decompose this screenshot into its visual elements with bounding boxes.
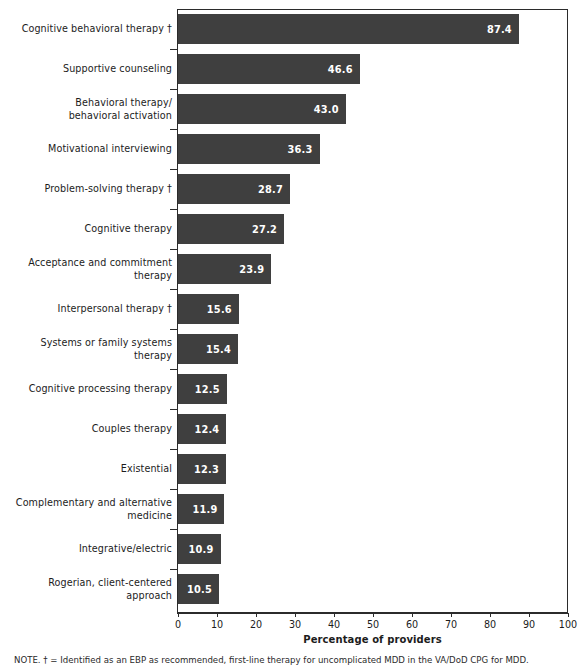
bar-container: 11.9 (178, 494, 568, 524)
bar[interactable]: 43.0 (178, 94, 346, 124)
y-axis-tick (170, 369, 178, 370)
x-tick-label: 100 (548, 619, 586, 630)
bar-container: 10.9 (178, 534, 568, 564)
bar[interactable]: 23.9 (178, 254, 271, 284)
x-tick-label: 40 (314, 619, 354, 630)
bar[interactable]: 10.5 (178, 574, 219, 604)
category-label: Systems or family systemstherapy (0, 337, 172, 362)
x-tick-label: 70 (431, 619, 471, 630)
bar[interactable]: 12.5 (178, 374, 227, 404)
bar-container: 15.6 (178, 294, 568, 324)
bar-container: 10.5 (178, 574, 568, 604)
bar-value-label: 43.0 (314, 104, 339, 115)
bar-chart: Cognitive behavioral therapy †87.4Suppor… (0, 0, 586, 666)
bar-row: Couples therapy12.4 (0, 409, 586, 449)
y-axis-tick (170, 449, 178, 450)
x-tick-mark (295, 613, 296, 617)
bar-container: 43.0 (178, 94, 568, 124)
x-tick-label: 30 (275, 619, 315, 630)
x-tick-mark (217, 613, 218, 617)
bar[interactable]: 28.7 (178, 174, 290, 204)
y-axis-tick (170, 89, 178, 90)
bar-row: Cognitive behavioral therapy †87.4 (0, 9, 586, 49)
category-label: Interpersonal therapy † (0, 303, 172, 316)
category-label: Acceptance and commitmenttherapy (0, 257, 172, 282)
x-axis-title: Percentage of providers (177, 634, 568, 645)
x-tick-mark (529, 613, 530, 617)
bar[interactable]: 15.4 (178, 334, 238, 364)
x-tick-label: 0 (158, 619, 198, 630)
y-axis-tick (170, 249, 178, 250)
x-tick-label: 80 (470, 619, 510, 630)
bar-row: Motivational interviewing36.3 (0, 129, 586, 169)
bar[interactable]: 87.4 (178, 14, 519, 44)
bar-container: 27.2 (178, 214, 568, 244)
bar-value-label: 11.9 (192, 504, 217, 515)
bar-container: 87.4 (178, 14, 568, 44)
y-axis-tick (170, 489, 178, 490)
bar-row: Existential12.3 (0, 449, 586, 489)
x-tick-mark (373, 613, 374, 617)
x-tick-label: 90 (509, 619, 549, 630)
bar-value-label: 10.9 (189, 544, 214, 555)
x-tick-mark (490, 613, 491, 617)
bar-container: 36.3 (178, 134, 568, 164)
bar-value-label: 15.4 (206, 344, 231, 355)
category-label: Supportive counseling (0, 63, 172, 76)
bar[interactable]: 46.6 (178, 54, 360, 84)
bar[interactable]: 10.9 (178, 534, 221, 564)
x-tick-label: 20 (236, 619, 276, 630)
bar-value-label: 10.5 (187, 584, 212, 595)
bar[interactable]: 12.3 (178, 454, 226, 484)
category-label: Motivational interviewing (0, 143, 172, 156)
x-tick-label: 10 (197, 619, 237, 630)
category-label: Cognitive processing therapy (0, 383, 172, 396)
bar-row: Cognitive processing therapy12.5 (0, 369, 586, 409)
bar-value-label: 15.6 (207, 304, 232, 315)
bar-value-label: 28.7 (258, 184, 283, 195)
bar-row: Complementary and alternativemedicine11.… (0, 489, 586, 529)
bar[interactable]: 11.9 (178, 494, 224, 524)
bar-row: Supportive counseling46.6 (0, 49, 586, 89)
chart-footnote: NOTE. † = Identified as an EBP as recomm… (14, 655, 574, 666)
bar[interactable]: 15.6 (178, 294, 239, 324)
bar-value-label: 87.4 (487, 24, 512, 35)
category-label: Problem-solving therapy † (0, 183, 172, 196)
category-label: Existential (0, 463, 172, 476)
bar-value-label: 12.5 (195, 384, 220, 395)
x-tick-mark (256, 613, 257, 617)
x-tick-mark (412, 613, 413, 617)
bar-container: 23.9 (178, 254, 568, 284)
bar-row: Cognitive therapy27.2 (0, 209, 586, 249)
bar-row: Behavioral therapy/behavioral activation… (0, 89, 586, 129)
bar-rows: Cognitive behavioral therapy †87.4Suppor… (0, 9, 586, 613)
bar-row: Rogerian, client-centeredapproach10.5 (0, 569, 586, 609)
x-tick-mark (334, 613, 335, 617)
category-label: Complementary and alternativemedicine (0, 497, 172, 522)
category-label: Cognitive behavioral therapy † (0, 23, 172, 36)
bar-value-label: 12.3 (194, 464, 219, 475)
category-label: Couples therapy (0, 423, 172, 436)
bar-value-label: 36.3 (288, 144, 313, 155)
y-axis-tick (170, 169, 178, 170)
bar-container: 12.3 (178, 454, 568, 484)
bar-container: 46.6 (178, 54, 568, 84)
x-tick-label: 60 (392, 619, 432, 630)
bar-container: 12.4 (178, 414, 568, 444)
bar-value-label: 27.2 (252, 224, 277, 235)
category-label: Rogerian, client-centeredapproach (0, 577, 172, 602)
category-label: Cognitive therapy (0, 223, 172, 236)
bar[interactable]: 36.3 (178, 134, 320, 164)
x-tick-mark (568, 613, 569, 617)
category-label: Integrative/electric (0, 543, 172, 556)
bar[interactable]: 12.4 (178, 414, 226, 444)
y-axis-tick (170, 49, 178, 50)
y-axis-tick (170, 129, 178, 130)
x-tick-label: 50 (353, 619, 393, 630)
x-tick-mark (451, 613, 452, 617)
bar[interactable]: 27.2 (178, 214, 284, 244)
x-tick-mark (178, 613, 179, 617)
bar-container: 12.5 (178, 374, 568, 404)
y-axis-tick (170, 569, 178, 570)
bar-row: Acceptance and commitmenttherapy23.9 (0, 249, 586, 289)
